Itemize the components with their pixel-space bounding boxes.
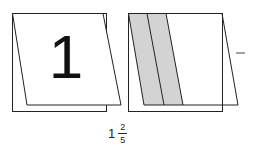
right-card [129, 14, 239, 112]
denominator: 5 [120, 135, 125, 145]
left-card-digit: 1 [49, 22, 83, 91]
left-card: 1 [13, 14, 122, 112]
fraction-bar [118, 133, 127, 134]
whole-part: 1 [108, 126, 115, 141]
fraction-part: 2 5 [118, 122, 127, 145]
fraction-cards-diagram: 1 [0, 0, 260, 149]
mixed-number-label: 1 2 5 [108, 119, 127, 147]
numerator: 2 [120, 122, 125, 132]
